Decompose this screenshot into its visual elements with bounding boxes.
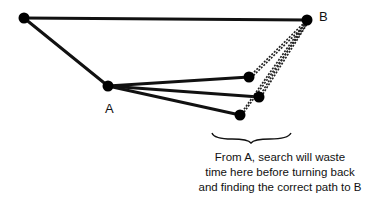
curly-brace xyxy=(212,133,291,143)
node-start xyxy=(19,13,30,24)
edge-n3-b-2 xyxy=(242,21,309,115)
solid-edges xyxy=(24,18,307,115)
edge-a-n1 xyxy=(108,77,249,86)
edge-start-b xyxy=(24,18,307,20)
node-n2 xyxy=(254,92,265,103)
edge-n3-b xyxy=(240,20,307,115)
edge-n1-b xyxy=(249,20,307,77)
node-n3 xyxy=(235,110,246,121)
caption-line-2: time here before turning back xyxy=(190,165,369,180)
label-a: A xyxy=(105,101,114,116)
dashed-edges xyxy=(240,20,309,115)
caption: From A, search will waste time here befo… xyxy=(190,150,369,195)
node-b xyxy=(302,15,313,26)
node-n1 xyxy=(244,72,255,83)
edge-start-a xyxy=(24,18,108,86)
edge-n1-b-2 xyxy=(251,21,309,78)
node-a xyxy=(103,81,114,92)
caption-line-3: and finding the correct path to B xyxy=(190,180,369,195)
label-b: B xyxy=(319,9,328,24)
caption-line-1: From A, search will waste xyxy=(190,150,369,165)
nodes xyxy=(19,13,313,121)
